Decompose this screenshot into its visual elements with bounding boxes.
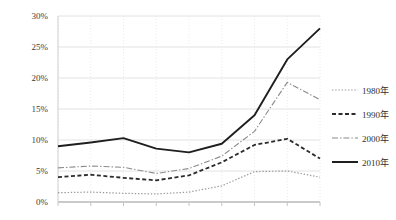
legend-item-1980[interactable]: 1980年 [332,78,396,102]
legend-item-1990[interactable]: 1990年 [332,102,396,126]
legend-label-1980: 1980年 [362,84,389,97]
legend-label-2010: 2010年 [362,156,389,169]
line-chart: 30% 25% 20% 15% 10% 5% 0% 1980年 1990年 [0,0,396,220]
legend-label-2000: 2000年 [362,132,389,145]
legend-item-2010[interactable]: 2010年 [332,150,396,174]
series-line-1990年 [58,139,320,181]
legend-swatch-1990 [332,109,358,119]
legend: 1980年 1990年 2000年 2010年 [332,78,396,174]
legend-swatch-2000 [332,133,358,143]
legend-swatch-1980 [332,85,358,95]
legend-item-2000[interactable]: 2000年 [332,126,396,150]
legend-swatch-2010 [332,157,358,167]
legend-label-1990: 1990年 [362,108,389,121]
x-axis-ticks [58,202,320,206]
